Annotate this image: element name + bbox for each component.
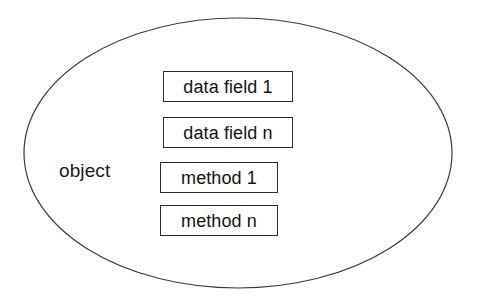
member-box-method-n: method n — [160, 205, 278, 236]
object-label: object — [59, 160, 110, 182]
member-box-data-field-1: data field 1 — [163, 71, 293, 102]
member-label: method n — [181, 211, 257, 231]
object-diagram: object data field 1 data field n method … — [0, 0, 480, 301]
member-label: data field n — [183, 123, 272, 143]
object-boundary-ellipse — [0, 0, 480, 301]
member-label: data field 1 — [183, 77, 272, 97]
ellipse-shape — [24, 18, 452, 288]
member-label: method 1 — [181, 168, 257, 188]
member-box-data-field-n: data field n — [163, 117, 293, 148]
member-box-method-1: method 1 — [160, 162, 278, 193]
